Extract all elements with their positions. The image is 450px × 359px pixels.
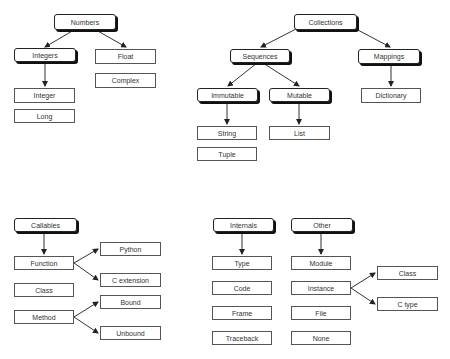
node-list: List: [269, 126, 330, 140]
node-code: Code: [212, 281, 272, 295]
node-class: Class: [14, 283, 74, 297]
node-mutable: Mutable: [269, 88, 330, 102]
node-float: Float: [95, 49, 156, 64]
node-bound: Bound: [100, 295, 161, 309]
node-tuple: Tuple: [197, 147, 257, 161]
node-type: Type: [212, 256, 272, 270]
node-callables: Callables: [14, 218, 77, 232]
node-internals: Internals: [213, 218, 274, 232]
node-complex: Complex: [95, 73, 156, 88]
node-python: Python: [100, 242, 161, 256]
node-collections: Collections: [294, 14, 357, 30]
node-integers: Integers: [14, 48, 76, 62]
node-file: File: [291, 306, 351, 320]
node-none: None: [291, 331, 351, 345]
node-immutable: Immutable: [197, 88, 258, 102]
node-c-type: C type: [377, 297, 438, 311]
node-other: Other: [291, 218, 353, 232]
node-frame: Frame: [212, 306, 272, 320]
node-sequences: Sequences: [230, 49, 290, 63]
node-unbound: Unbound: [100, 326, 161, 340]
node-instance-class: Class: [377, 266, 438, 280]
node-method: Method: [14, 310, 74, 324]
node-numbers: Numbers: [54, 14, 116, 30]
node-string: String: [197, 126, 257, 140]
node-traceback: Traceback: [212, 331, 272, 345]
node-c-extension: C extension: [100, 273, 161, 287]
node-dictionary: Dictionary: [361, 88, 421, 103]
node-long: Long: [14, 109, 75, 123]
node-module: Module: [291, 256, 351, 270]
node-function: Function: [14, 256, 74, 270]
node-mappings: Mappings: [358, 49, 420, 64]
node-integer: Integer: [14, 88, 75, 103]
python-type-hierarchy-diagram: Numbers Integers Float Complex Integer L…: [0, 0, 450, 359]
node-instance: Instance: [291, 281, 351, 295]
